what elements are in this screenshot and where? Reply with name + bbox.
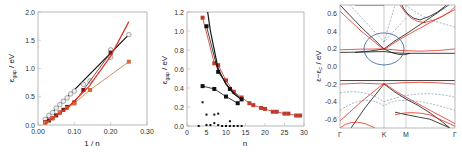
plot-frame [187,12,304,126]
data-point [206,124,208,126]
x-tick-label: K [382,131,387,138]
data-point [233,125,235,127]
data-point [251,103,255,107]
x-tick-label: M [403,131,409,138]
data-point [298,114,302,118]
data-point [72,89,77,94]
panel-middle: 0.00.20.40.60.81.01.2051015202530 n εgap… [160,9,308,149]
data-point [259,106,263,110]
data-point [202,101,204,103]
x-axis-label: n [243,139,247,148]
data-point [237,125,239,127]
data-point [201,16,205,20]
data-point [224,95,228,99]
band-line [340,83,455,123]
band-line [395,113,455,127]
data-point [271,110,275,114]
data-point [206,114,208,116]
y-tick-label: -0.4 [325,98,337,105]
band-line [348,84,455,132]
band-line [350,5,406,42]
x-tick-label: 5 [205,129,209,136]
x-tick-label: 0.10 [68,128,82,135]
x-tick-label: 10 [222,129,230,136]
y-tick-label: 0.0 [174,123,184,130]
data-point [294,114,298,118]
x-tick-label: 30 [300,129,308,136]
x-tick-label: Γ [338,131,342,138]
x-tick-label: 15 [242,129,250,136]
panel-right: -0.6-0.4-0.20.00.20.40.6ΓKMΓ ε−εF / eV [314,1,457,138]
data-point [81,82,86,87]
data-point [54,106,59,111]
y-tick-label: 0.6 [174,66,184,73]
x-tick-label: 0.30 [140,128,154,135]
x-tick-label: 25 [281,129,289,136]
data-point [61,99,66,104]
data-point [127,60,131,64]
data-point [58,102,63,107]
data-point [50,110,55,115]
y-axis-label: εgap / eV [160,55,170,84]
data-point [212,87,216,91]
y-tick-label: 1.0 [25,65,35,72]
x-tick-label: Γ [453,131,457,138]
data-point [241,125,243,127]
x-axis-label: 1 / n [84,139,100,148]
data-point [217,113,219,115]
data-point [229,125,231,127]
panel-left: 0.00.51.01.52.00.000.100.200.30 1 / n εg… [7,9,154,149]
data-point [217,124,219,126]
y-tick-label: 1.0 [174,28,184,35]
band-line [340,1,455,49]
data-point [247,101,251,105]
y-tick-label: 1.2 [174,9,184,16]
figure: 0.00.51.01.52.00.000.100.200.30 1 / n εg… [0,0,462,152]
data-point [65,96,70,101]
y-axis-label: εgap / eV [7,53,17,82]
data-point [283,112,287,116]
y-tick-label: 0.2 [174,104,184,111]
y-tick-label: 0.5 [25,93,35,100]
data-point [225,125,227,127]
data-point [213,114,215,116]
y-tick-label: 0.2 [327,45,337,52]
data-point [88,88,92,92]
y-tick-label: 0.6 [327,10,337,17]
x-tick-label: 0 [185,129,189,136]
data-point [275,110,279,114]
data-point [198,125,200,127]
band-line [340,9,455,49]
y-tick-label: 1.5 [25,37,35,44]
x-tick-label: 20 [261,129,269,136]
band-line [340,122,375,128]
band-line [340,92,455,102]
y-tick-label: 0.0 [327,63,337,70]
data-point [286,112,290,116]
y-tick-label: 0.8 [174,47,184,54]
data-point [263,107,267,111]
data-point [127,32,132,37]
y-tick-label: -0.2 [325,81,337,88]
data-point [236,101,240,105]
y-tick-label: 0.4 [174,85,184,92]
data-point [229,120,231,122]
y-tick-label: 0.4 [327,28,337,35]
data-point [209,124,211,126]
band-line [340,82,455,84]
x-tick-label: 0.00 [31,128,45,135]
data-point [205,24,209,28]
band-line [384,5,395,42]
series-line [203,86,238,103]
y-tick-label: 2.0 [25,9,35,16]
data-point [201,84,205,88]
x-tick-label: 0.20 [104,128,118,135]
y-tick-label: -0.6 [325,116,337,123]
band-line [340,49,455,51]
data-point [213,122,215,124]
y-axis-label: ε−εF / eV [314,50,324,82]
data-point [221,125,223,127]
